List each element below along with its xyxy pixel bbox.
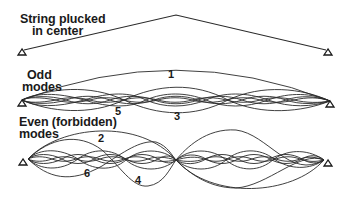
even-right-support-icon xyxy=(324,160,332,166)
even-mode-4-label: 4 xyxy=(135,175,141,186)
even-left-support-icon xyxy=(19,159,27,165)
odd-mode-5-label: 5 xyxy=(115,106,121,117)
odd-title-line2: modes xyxy=(22,81,62,93)
plucked-title-line2: in center xyxy=(20,25,105,37)
plucked-title: String plucked in center xyxy=(20,13,105,37)
odd-modes-group xyxy=(18,70,334,113)
odd-modes-title: Odd modes xyxy=(22,69,62,93)
even-mode-2-label: 2 xyxy=(98,133,104,144)
even-mode-6-label: 6 xyxy=(84,168,90,179)
even-mode-4-curve-b xyxy=(28,142,324,188)
odd-mode-1-label: 1 xyxy=(168,69,174,80)
odd-mode-3-label: 3 xyxy=(174,111,180,122)
